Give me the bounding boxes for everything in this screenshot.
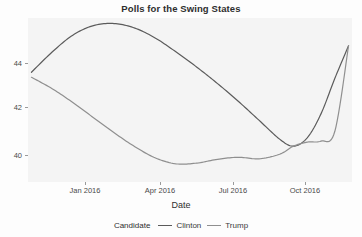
- legend-label-clinton: Clinton: [176, 221, 201, 230]
- x-axis-title: Date: [0, 200, 362, 210]
- legend-label-trump: Trump: [225, 221, 248, 230]
- legend-line-icon-trump: [207, 225, 221, 226]
- y-tick-label-1: 42: [2, 103, 22, 112]
- y-tick-mark-0: [25, 63, 28, 64]
- chart-container: Polls for the Swing States 44 42 40 Jan …: [0, 0, 362, 237]
- y-tick-mark-2: [25, 155, 28, 156]
- x-tick-mark-3: [305, 182, 306, 185]
- plot-svg: [28, 18, 352, 182]
- plot-panel: [28, 18, 352, 182]
- x-tick-mark-2: [233, 182, 234, 185]
- x-tick-label-0: Jan 2016: [62, 186, 108, 195]
- x-tick-label-2: Jul 2016: [210, 186, 256, 195]
- x-tick-mark-1: [160, 182, 161, 185]
- line-series-trump: [31, 46, 348, 164]
- y-tick-mark-1: [25, 107, 28, 108]
- legend-title: Candidate: [114, 221, 150, 230]
- chart-title: Polls for the Swing States: [0, 3, 362, 14]
- x-tick-label-3: Oct 2016: [282, 186, 328, 195]
- x-tick-mark-0: [85, 182, 86, 185]
- y-tick-label-2: 40: [2, 151, 22, 160]
- legend-line-icon-clinton: [158, 225, 172, 226]
- y-tick-label-0: 44: [2, 59, 22, 68]
- x-tick-label-1: Apr 2016: [137, 186, 183, 195]
- legend-item-clinton[interactable]: Clinton: [158, 221, 201, 230]
- legend-item-trump[interactable]: Trump: [207, 221, 248, 230]
- line-series-clinton: [31, 23, 348, 146]
- chart-legend: Candidate Clinton Trump: [0, 221, 362, 230]
